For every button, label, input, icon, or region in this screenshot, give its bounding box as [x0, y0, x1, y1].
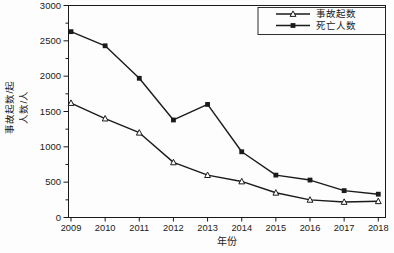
chart-figure: 0500100015002000250030002009201020112012…	[0, 0, 394, 253]
x-axis-tick-label: 2009	[61, 223, 82, 233]
y-axis-tick-label: 2000	[40, 70, 61, 81]
y-axis-tick-label: 1500	[40, 106, 61, 117]
y-axis-label-line2: 人数/人	[17, 47, 31, 167]
y-axis-tick-label: 500	[45, 176, 61, 187]
series-1-marker	[69, 29, 74, 34]
y-axis-tick-label: 1000	[40, 141, 61, 152]
x-axis-tick-label: 2018	[368, 223, 389, 233]
plot-frame	[69, 6, 386, 218]
y-axis-tick-label: 0	[56, 212, 61, 223]
series-1-marker	[342, 188, 347, 193]
series-1-marker	[273, 173, 278, 178]
y-axis-tick-label: 2500	[40, 35, 61, 46]
series-1-marker	[239, 149, 244, 154]
legend-label-1: 死亡人数	[316, 20, 356, 31]
x-axis-tick-label: 2013	[197, 223, 218, 233]
series-1-marker	[171, 118, 176, 123]
y-axis-tick-label: 3000	[40, 0, 61, 11]
y-axis-label-line1: 事故起数/起	[3, 47, 17, 167]
series-1-marker	[137, 76, 142, 81]
x-axis-tick-label: 2012	[163, 223, 184, 233]
series-1-marker	[308, 178, 313, 183]
series-1-marker	[376, 192, 381, 197]
y-axis-label: 事故起数/起 人数/人	[3, 47, 32, 167]
series-line-1	[71, 32, 378, 195]
x-axis-tick-label: 2016	[300, 223, 321, 233]
series-1-marker	[205, 102, 210, 107]
accident-trend-chart: 0500100015002000250030002009201020112012…	[0, 0, 394, 253]
series-1-marker	[103, 43, 108, 48]
x-axis-tick-label: 2011	[129, 223, 149, 233]
x-axis-tick-label: 2010	[95, 223, 116, 233]
x-axis-tick-label: 2015	[266, 223, 287, 233]
legend-label-0: 事故起数	[316, 8, 356, 19]
x-axis-tick-label: 2014	[231, 223, 252, 233]
legend-marker-1	[291, 23, 296, 28]
x-axis-label: 年份	[68, 233, 386, 248]
x-axis-tick-label: 2017	[334, 223, 355, 233]
